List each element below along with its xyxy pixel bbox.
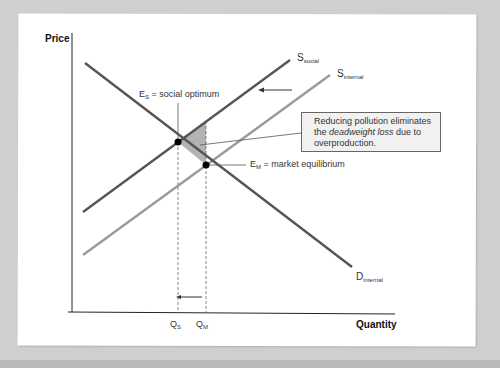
deadweight-loss-callout: Reducing pollution eliminates the deadwe… [301, 112, 441, 152]
market-equilibrium-point [203, 162, 210, 169]
supply-demand-diagram [0, 0, 500, 368]
s-social-curve [83, 60, 290, 212]
y-axis-label: Price [45, 34, 69, 44]
s-social-label: Ssocial [297, 53, 319, 64]
deadweight-loss-area [178, 121, 206, 165]
callout-line-1: Reducing pollution eliminates [314, 116, 440, 127]
social-optimum-label: ES = social optimum [139, 90, 219, 100]
social-optimum-point [175, 139, 182, 146]
supply-shift-arrowhead-icon [258, 88, 264, 93]
quantity-axis [68, 312, 395, 314]
x-axis-label: Quantity [356, 320, 397, 330]
callout-line-2: the deadweight loss due to [314, 127, 440, 138]
callout-leader-line [200, 133, 301, 145]
qs-tick-label: QS [170, 320, 181, 330]
d-internal-label: Dinternal [356, 272, 383, 283]
callout-line-3: overproduction. [314, 138, 440, 149]
s-internal-label: Sinternal [337, 69, 363, 80]
market-equilibrium-label: EM = market equilibrium [250, 160, 345, 170]
qm-tick-label: QM [196, 320, 208, 330]
quantity-shift-arrowhead-icon [176, 295, 181, 299]
